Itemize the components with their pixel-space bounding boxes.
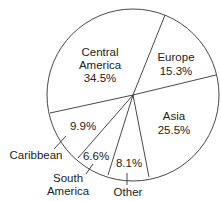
slice-pct-south: 6.6% <box>83 150 109 162</box>
slice-pct-europe: 15.3% <box>160 65 193 77</box>
slice-label-south-2: America <box>47 185 90 197</box>
slice-pct-other: 8.1% <box>116 157 142 169</box>
pie-chart: Central America 34.5% Europe 15.3% Asia … <box>0 0 221 201</box>
divider-europe-asia <box>133 75 216 95</box>
slice-label-central-2: America <box>79 59 122 71</box>
slice-label-caribbean: Caribbean <box>9 149 62 161</box>
slice-label-other: Other <box>114 186 143 198</box>
slice-pct-central: 34.5% <box>84 72 117 84</box>
slice-pct-asia: 25.5% <box>158 124 191 136</box>
slice-label-south: South <box>53 172 83 184</box>
slice-label-europe: Europe <box>157 51 194 63</box>
slice-label-central: Central <box>81 46 118 58</box>
divider-caribbean-central <box>50 95 133 113</box>
slice-pct-caribbean: 9.9% <box>70 120 96 132</box>
slice-label-asia: Asia <box>163 110 186 122</box>
leader-south <box>86 164 93 174</box>
